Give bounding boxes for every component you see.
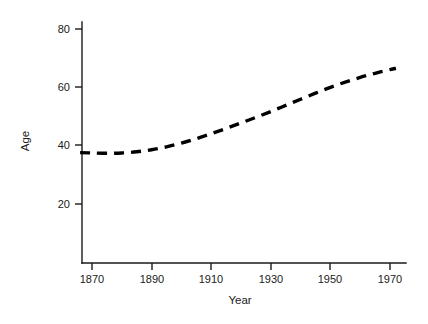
x-tick-label-1930: 1930	[259, 273, 283, 285]
y-tick-label-60: 60	[58, 81, 70, 93]
x-tick-label-1970: 1970	[378, 273, 402, 285]
x-tick-label-1910: 1910	[199, 273, 223, 285]
x-tick-label-1950: 1950	[318, 273, 342, 285]
y-tick-label-20: 20	[58, 198, 70, 210]
chart-container: 80 60 40 20 1870 1890 1910 1930 1950 197…	[0, 0, 428, 324]
y-tick-label-40: 40	[58, 139, 70, 151]
x-tick-label-1870: 1870	[80, 273, 104, 285]
y-axis-title: Age	[19, 131, 31, 151]
y-tick-label-80: 80	[58, 23, 70, 35]
x-tick-label-1890: 1890	[140, 273, 164, 285]
age-vs-year-line-chart: 80 60 40 20 1870 1890 1910 1930 1950 197…	[0, 0, 428, 324]
x-axis-title: Year	[228, 294, 251, 306]
